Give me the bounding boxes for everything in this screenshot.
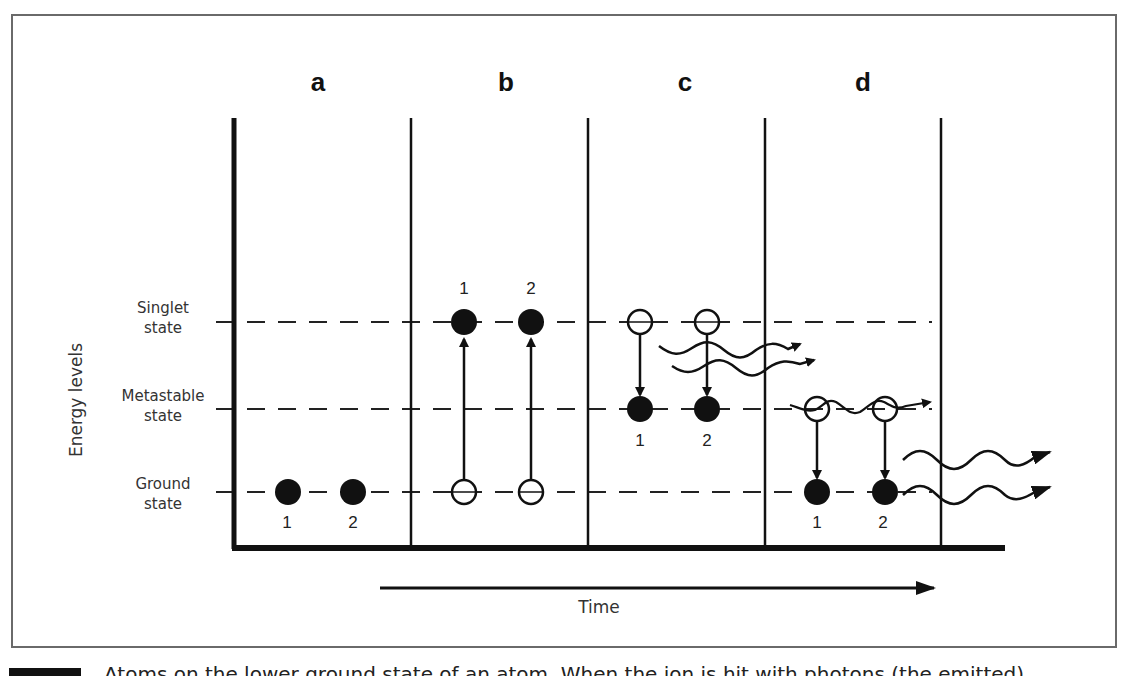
y-axis-label: Energy levels [66, 343, 86, 457]
metastable-label-1: Metastable [121, 387, 204, 405]
electron-filled [804, 479, 830, 505]
electron-number: 2 [878, 513, 887, 532]
singlet-label-1: Singlet [137, 299, 189, 317]
photon-wave [672, 360, 814, 376]
electron-number: 1 [282, 513, 291, 532]
x-axis-label: Time [577, 597, 620, 617]
ground-label-2: state [144, 495, 182, 513]
electron-number: 2 [348, 513, 357, 532]
emitted-photon-wave [903, 451, 1050, 469]
ground-label-1: Ground [135, 475, 190, 493]
energy-level-diagram: a b c d Energy levels Singlet state Meta… [0, 0, 1128, 676]
electron-number: 2 [526, 279, 535, 298]
panel-label-a: a [311, 67, 326, 97]
panel-d: 1 2 [790, 397, 1050, 532]
electron-filled [872, 479, 898, 505]
electron-number: 2 [702, 431, 711, 450]
electron-number: 1 [459, 279, 468, 298]
electron-filled [275, 479, 301, 505]
electron-filled [627, 396, 653, 422]
panel-label-b: b [498, 67, 514, 97]
level-lines [216, 322, 932, 492]
electron-number: 1 [635, 431, 644, 450]
panel-a: 1 2 [275, 479, 366, 532]
electron-filled [694, 396, 720, 422]
metastable-label-2: state [144, 407, 182, 425]
photon-wave [659, 342, 800, 357]
panel-c: 1 2 [627, 310, 814, 450]
figure-caption: Atoms on the lower ground state of an at… [104, 664, 1043, 676]
panel-label-c: c [678, 67, 692, 97]
panel-label-d: d [855, 67, 871, 97]
electron-filled [451, 309, 477, 335]
panel-b: 1 2 [451, 279, 544, 504]
electron-number: 1 [812, 513, 821, 532]
photon-wave [790, 401, 930, 413]
electron-filled [340, 479, 366, 505]
singlet-label-2: state [144, 319, 182, 337]
electron-filled [518, 309, 544, 335]
emitted-photon-wave [903, 486, 1050, 504]
caption-marker [9, 668, 81, 676]
